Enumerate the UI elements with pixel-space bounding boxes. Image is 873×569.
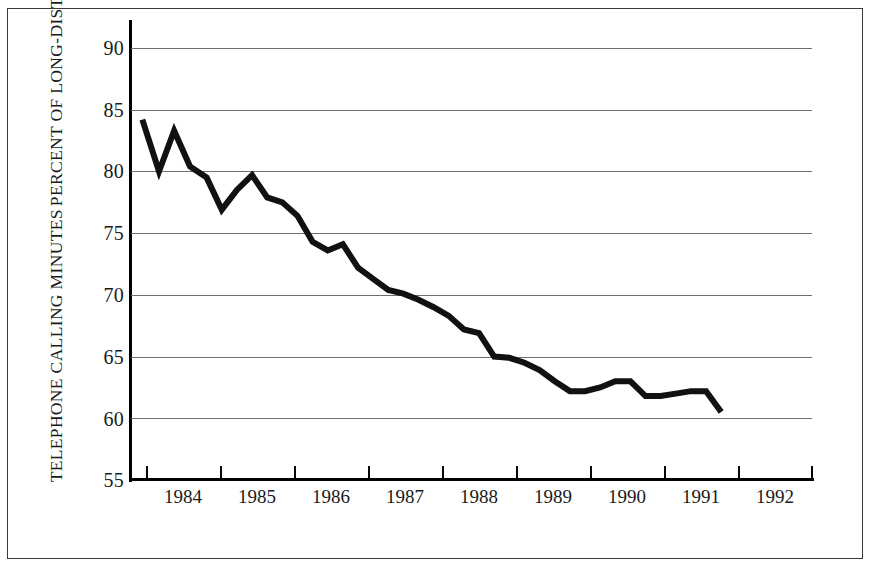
x-tick-label-1984: 1984 [148,486,218,508]
y-tick-label-60: 60 [84,409,124,429]
y-tick-label-75: 75 [84,223,124,243]
x-tick-1984 [146,466,148,479]
x-tick-label-1991: 1991 [666,486,736,508]
x-tick-1985 [220,466,222,479]
x-tick-label-1985: 1985 [222,486,292,508]
x-tick-1986 [294,466,296,479]
x-tick-1988 [442,466,444,479]
x-tick-1991 [664,466,666,479]
y-axis-title-line-2: TELEPHONE CALLING MINUTES [47,209,66,482]
x-tick-label-1989: 1989 [518,486,588,508]
line-chart: TELEPHONE CALLING MINUTES PERCENT OF LON… [0,0,873,569]
x-tick-1993 [811,466,813,479]
y-tick-label-55: 55 [84,470,124,490]
x-tick-1987 [368,466,370,479]
y-tick-label-80: 80 [84,161,124,181]
y-axis-title: TELEPHONE CALLING MINUTES PERCENT OF LON… [32,56,80,376]
x-tick-label-1990: 1990 [592,486,662,508]
data-line-svg [131,48,812,480]
y-tick-label-65: 65 [84,347,124,367]
y-tick-label-85: 85 [84,100,124,120]
x-tick-label-1986: 1986 [296,486,366,508]
y-tick-label-90: 90 [84,38,124,58]
y-tick-label-70: 70 [84,285,124,305]
x-tick-1989 [516,466,518,479]
x-tick-label-1988: 1988 [444,486,514,508]
y-axis-title-line-1: PERCENT OF LONG-DISTANCE [47,0,66,206]
plot-area [131,48,812,480]
data-series-line [142,120,721,413]
x-tick-label-1992: 1992 [740,486,810,508]
x-tick-1990 [590,466,592,479]
x-tick-1992 [738,466,740,479]
x-tick-label-1987: 1987 [370,486,440,508]
